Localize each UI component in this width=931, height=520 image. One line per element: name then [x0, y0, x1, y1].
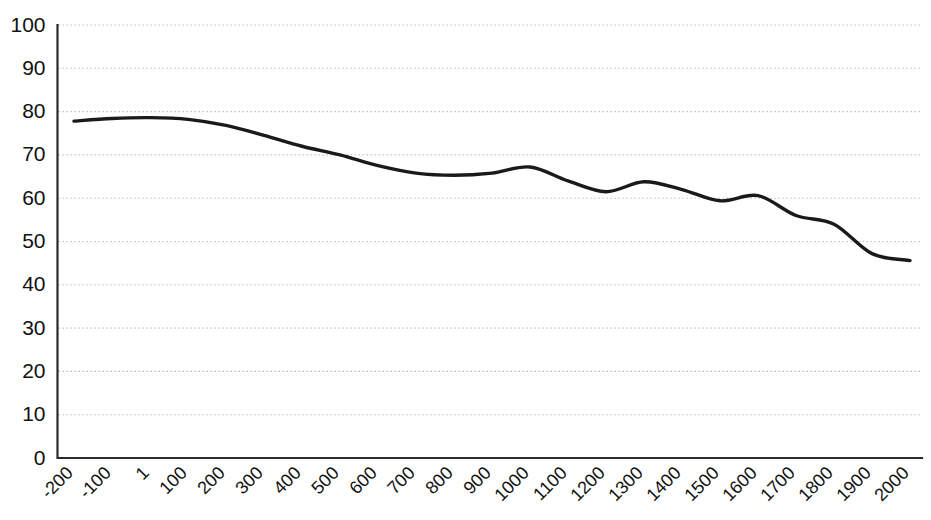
x-tick-label-1300: 1300 — [604, 463, 646, 505]
chart-container: 0102030405060708090100 -200-100110020030… — [0, 0, 931, 520]
x-tick-label-1600: 1600 — [718, 463, 760, 505]
x-axis-tick-labels: -200-10011002003004005006007008009001000… — [37, 463, 913, 505]
x-tick-label-900: 900 — [459, 463, 494, 498]
line-chart: 0102030405060708090100 -200-100110020030… — [0, 0, 931, 520]
x-tick-label-neg200: -200 — [37, 463, 77, 503]
x-tick-label-1400: 1400 — [642, 463, 684, 505]
data-line-series-1 — [74, 118, 910, 261]
gridlines-group — [59, 25, 923, 415]
y-tick-label-50: 50 — [22, 229, 45, 252]
x-tick-label-400: 400 — [269, 463, 304, 498]
x-tick-label-1700: 1700 — [756, 463, 798, 505]
x-tick-label-600: 600 — [345, 463, 380, 498]
x-tick-label-800: 800 — [421, 463, 456, 498]
y-tick-label-10: 10 — [22, 402, 45, 425]
x-tick-label-1000: 1000 — [490, 463, 532, 505]
x-tick-label-1: 1 — [132, 463, 153, 484]
y-tick-label-40: 40 — [22, 272, 45, 295]
y-tick-label-60: 60 — [22, 186, 45, 209]
y-axis-tick-labels: 0102030405060708090100 — [10, 13, 45, 469]
x-tick-label-200: 200 — [193, 463, 228, 498]
x-tick-label-1800: 1800 — [794, 463, 836, 505]
x-tick-label-700: 700 — [383, 463, 418, 498]
x-tick-label-1100: 1100 — [529, 463, 571, 505]
y-tick-label-20: 20 — [22, 359, 45, 382]
x-tick-label-500: 500 — [307, 463, 342, 498]
x-tick-label-1900: 1900 — [832, 463, 874, 505]
series-group — [74, 118, 910, 261]
x-tick-label-neg100: -100 — [75, 463, 115, 503]
x-tick-label-300: 300 — [231, 463, 266, 498]
x-tick-label-1200: 1200 — [566, 463, 608, 505]
y-tick-label-0: 0 — [34, 446, 46, 469]
y-tick-label-30: 30 — [22, 316, 45, 339]
x-tick-label-2000: 2000 — [870, 463, 912, 505]
x-tick-label-100: 100 — [155, 463, 190, 498]
x-tick-label-1500: 1500 — [680, 463, 722, 505]
y-tick-label-80: 80 — [22, 99, 45, 122]
y-tick-label-100: 100 — [10, 13, 45, 36]
y-tick-label-70: 70 — [22, 142, 45, 165]
y-tick-label-90: 90 — [22, 56, 45, 79]
